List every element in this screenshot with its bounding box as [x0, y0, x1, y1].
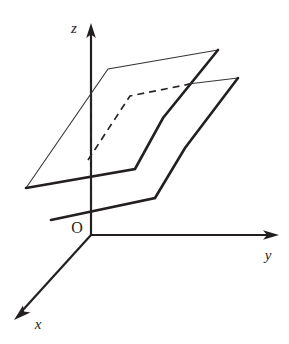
upper-plane-thin-edges [26, 50, 218, 188]
axes-group [14, 23, 279, 320]
x-axis-line [22, 235, 91, 311]
lower-plane-hidden-dashed-edge [88, 84, 190, 160]
geometry-figure: z y x O [0, 0, 289, 344]
figure-canvas: z y x O [0, 0, 289, 344]
x-axis-arrowhead [14, 306, 31, 321]
x-axis-label: x [34, 316, 42, 332]
origin-label: O [71, 219, 83, 236]
z-axis-label: z [70, 20, 77, 36]
labels-group: z y x O [34, 20, 272, 332]
y-axis-label: y [263, 247, 272, 263]
x-axis [14, 235, 91, 320]
upper-plane [26, 50, 218, 188]
y-axis [91, 230, 279, 240]
upper-plane-thick-edges [26, 50, 218, 188]
